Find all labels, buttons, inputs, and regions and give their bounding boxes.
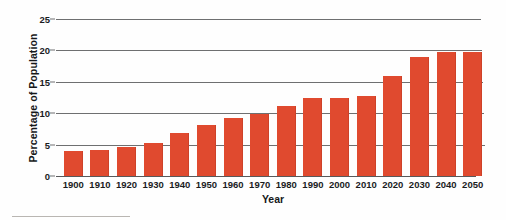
x-tick-label-1980: 1980: [273, 179, 300, 190]
bar-1940: [170, 133, 189, 176]
bar-slot: [220, 19, 247, 176]
x-tick-label-2000: 2000: [326, 179, 353, 190]
bar-2050: [463, 52, 482, 176]
scan-artifact-line: [12, 216, 130, 217]
plot-area: 0510152025: [56, 19, 490, 176]
bar-1910: [90, 150, 109, 176]
gridline-0: [56, 176, 476, 177]
bar-2040: [437, 52, 456, 176]
x-tick-label-1900: 1900: [60, 179, 87, 190]
y-tick-label-10: 10: [39, 108, 50, 119]
bar-series: [56, 19, 490, 176]
x-tick-label-2010: 2010: [353, 179, 380, 190]
bar-2010: [357, 96, 376, 176]
y-axis-title: Percentage of Population: [22, 10, 44, 186]
bar-slot: [193, 19, 220, 176]
bar-slot: [167, 19, 194, 176]
bar-2000: [330, 98, 349, 177]
bar-chart-figure: Percentage of Population 0510152025 1900…: [0, 0, 506, 220]
x-tick-label-1990: 1990: [300, 179, 327, 190]
x-tick-label-1940: 1940: [167, 179, 194, 190]
x-tick-label-2050: 2050: [459, 179, 486, 190]
x-tick-label-2020: 2020: [380, 179, 407, 190]
y-tick-label-20: 20: [39, 45, 50, 56]
x-tick-labels: 1900191019201930194019501960197019801990…: [56, 179, 490, 190]
x-tick-label-1920: 1920: [113, 179, 140, 190]
bar-slot: [326, 19, 353, 176]
bar-slot: [433, 19, 460, 176]
bar-2020: [383, 76, 402, 176]
y-tick-mark-20: [50, 50, 55, 51]
x-axis-title: Year: [56, 193, 490, 205]
bar-slot: [87, 19, 114, 176]
y-tick-label-25: 25: [39, 14, 50, 25]
x-tick-label-1970: 1970: [246, 179, 273, 190]
x-tick-label-1930: 1930: [140, 179, 167, 190]
bar-slot: [380, 19, 407, 176]
x-tick-label-1950: 1950: [193, 179, 220, 190]
bar-1930: [144, 143, 163, 176]
bar-slot: [300, 19, 327, 176]
x-tick-label-2030: 2030: [406, 179, 433, 190]
bar-1970: [250, 114, 269, 176]
bar-slot: [406, 19, 433, 176]
bar-1900: [64, 151, 83, 176]
y-tick-label-15: 15: [39, 76, 50, 87]
y-tick-mark-0: [50, 176, 55, 177]
bar-slot: [353, 19, 380, 176]
bar-slot: [459, 19, 486, 176]
bar-1950: [197, 125, 216, 176]
bar-slot: [60, 19, 87, 176]
bar-slot: [246, 19, 273, 176]
x-tick-label-1960: 1960: [220, 179, 247, 190]
y-tick-label-0: 0: [45, 171, 50, 182]
y-tick-mark-5: [50, 144, 55, 145]
bar-1960: [224, 118, 243, 176]
bar-1990: [303, 98, 322, 176]
x-tick-label-2040: 2040: [433, 179, 460, 190]
y-tick-mark-15: [50, 81, 55, 82]
bar-1980: [277, 106, 296, 176]
y-tick-label-5: 5: [45, 139, 50, 150]
x-tick-label-1910: 1910: [87, 179, 114, 190]
y-tick-mark-25: [50, 19, 55, 20]
bar-2030: [410, 57, 429, 176]
y-tick-mark-10: [50, 113, 55, 114]
bar-1920: [117, 147, 136, 176]
bar-slot: [140, 19, 167, 176]
bar-slot: [113, 19, 140, 176]
bar-slot: [273, 19, 300, 176]
